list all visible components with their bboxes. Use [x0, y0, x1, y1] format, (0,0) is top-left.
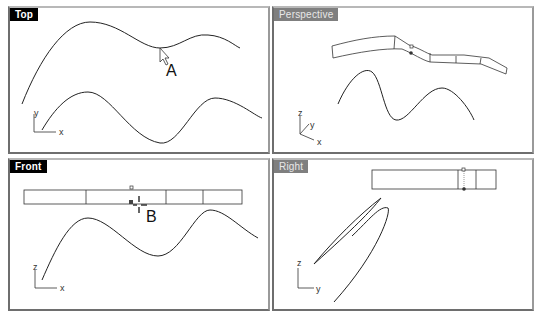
viewport-label-right[interactable]: Right	[274, 160, 308, 173]
surface-strip	[332, 36, 507, 74]
axis-gizmo-icon: z x	[33, 262, 65, 293]
svg-text:x: x	[317, 137, 322, 147]
control-point-filled	[409, 51, 413, 55]
viewport-label-front[interactable]: Front	[10, 160, 47, 173]
axis-gizmo-icon: z y x	[298, 108, 322, 147]
control-point-filled	[462, 187, 466, 191]
profile-curve	[314, 198, 388, 302]
right-canvas: z y	[274, 160, 532, 309]
control-point-open	[410, 45, 413, 48]
gumball-widget-icon	[129, 196, 147, 213]
viewport-front[interactable]: B z x Front	[8, 158, 270, 311]
callout-b: B	[146, 208, 157, 225]
axis-gizmo-icon: y x	[34, 108, 64, 137]
profile-curve	[338, 70, 474, 120]
svg-text:z: z	[298, 108, 303, 118]
upper-curve	[22, 22, 240, 104]
surface-strip	[372, 170, 496, 189]
callout-a: A	[166, 62, 177, 79]
svg-text:z: z	[297, 258, 302, 268]
control-point-open	[130, 186, 133, 189]
viewport-right[interactable]: z y Right	[272, 158, 534, 311]
control-point-open	[462, 168, 465, 171]
svg-text:y: y	[34, 108, 39, 118]
viewport-top[interactable]: A y x Top	[8, 6, 270, 154]
top-canvas: A y x	[10, 8, 268, 152]
viewport-perspective[interactable]: z y x Perspective	[272, 6, 534, 154]
svg-text:x: x	[60, 283, 65, 293]
lower-curve	[42, 92, 262, 143]
svg-text:y: y	[310, 120, 315, 130]
viewport-label-perspective[interactable]: Perspective	[274, 8, 338, 21]
perspective-canvas: z y x	[274, 8, 532, 152]
svg-text:z: z	[33, 262, 38, 272]
svg-text:y: y	[316, 284, 321, 294]
axis-gizmo-icon: z y	[297, 258, 321, 294]
viewport-label-top[interactable]: Top	[10, 8, 38, 21]
svg-text:x: x	[59, 127, 64, 137]
front-canvas: B z x	[10, 160, 268, 309]
